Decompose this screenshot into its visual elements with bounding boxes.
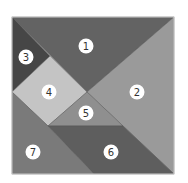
label-number: 7 xyxy=(30,147,36,158)
piece-label-7: 7 xyxy=(26,145,41,160)
label-number: 3 xyxy=(23,52,29,63)
tangram-canvas: 1234567 xyxy=(0,0,188,183)
piece-label-6: 6 xyxy=(104,145,119,160)
label-number: 6 xyxy=(108,147,114,158)
label-number: 2 xyxy=(134,87,140,98)
piece-label-5: 5 xyxy=(79,106,94,121)
label-number: 4 xyxy=(46,87,52,98)
tangram-diagram: 1234567 xyxy=(0,0,188,183)
label-number: 5 xyxy=(83,108,89,119)
piece-label-2: 2 xyxy=(130,85,145,100)
piece-label-1: 1 xyxy=(79,39,94,54)
piece-label-3: 3 xyxy=(19,50,34,65)
piece-label-4: 4 xyxy=(42,85,57,100)
label-number: 1 xyxy=(83,41,89,52)
